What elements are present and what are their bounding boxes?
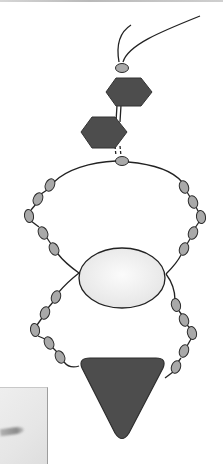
central-ellipse [79,248,165,308]
bead [23,209,34,223]
top-bead [116,64,129,73]
bead [187,225,200,240]
lower-left-chain [29,289,66,364]
bead [178,312,191,327]
lower-right-chain [170,298,198,375]
bead [29,323,40,337]
upper-right-chain [178,179,207,256]
gel-image-inset [0,387,48,464]
tail-strands [118,16,200,62]
bead [178,343,191,358]
inverted-triangle [81,358,164,439]
bead [186,326,198,341]
upper-hexagon [106,78,152,106]
upper-left-chain [23,177,60,257]
bead [170,298,182,313]
bead [187,194,200,209]
gel-band [0,426,24,436]
diagram-canvas [0,0,223,464]
junction-bead [116,157,129,166]
bead [39,305,52,320]
bead [178,241,191,256]
bead [50,289,63,304]
bead [195,210,206,224]
bead [178,179,191,194]
